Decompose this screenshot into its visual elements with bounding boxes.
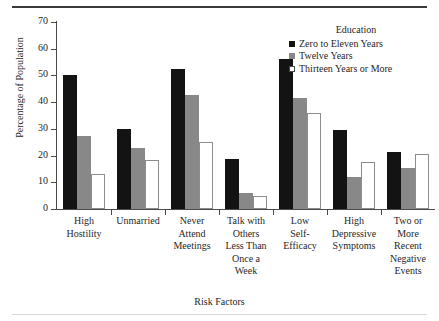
bar	[239, 193, 253, 209]
bar-group	[171, 22, 213, 209]
y-tick-label: 50	[38, 68, 48, 80]
figure-bar-chart: Percentage of Population Risk Factors 01…	[0, 0, 439, 321]
x-axis-title: Risk Factors	[0, 296, 439, 307]
y-tick-label: 40	[38, 95, 48, 107]
bar	[293, 98, 307, 209]
bar	[225, 159, 239, 209]
x-category-label: HighDepressiveSymptoms	[323, 215, 385, 253]
x-category-label: Talk withOthersLess ThanOnce aWeek	[215, 215, 277, 278]
x-category-label: LowSelf-Efficacy	[269, 215, 331, 253]
legend: Education Zero to Eleven YearsTwelve Yea…	[289, 24, 437, 75]
bar-group	[117, 22, 159, 209]
x-category-label: HighHostility	[53, 215, 115, 240]
bar	[63, 75, 77, 209]
bar	[117, 129, 131, 209]
bar	[279, 59, 293, 209]
y-tick-label: 60	[38, 42, 48, 54]
bar	[199, 142, 213, 209]
legend-items: Zero to Eleven YearsTwelve YearsThirteen…	[289, 38, 437, 76]
x-axis-line	[56, 209, 435, 210]
legend-swatch-icon	[289, 53, 295, 59]
legend-item: Thirteen Years or More	[289, 63, 437, 76]
y-tick-label: 0	[43, 202, 48, 214]
bar	[307, 113, 321, 209]
x-category-label: Unmarried	[107, 215, 169, 228]
bar	[145, 160, 159, 209]
top-rule	[12, 6, 427, 8]
x-category-label: Two orMoreRecentNegativeEvents	[377, 215, 439, 278]
legend-item: Twelve Years	[289, 50, 437, 63]
bottom-rule	[12, 314, 427, 315]
bar	[415, 154, 429, 209]
y-tick-label: 30	[38, 122, 48, 134]
y-axis-title: Percentage of Population	[14, 18, 25, 158]
bar	[347, 177, 361, 209]
bar	[387, 152, 401, 209]
bar	[171, 69, 185, 209]
y-tick-label: 10	[38, 175, 48, 187]
bar-group	[225, 22, 267, 209]
bar	[131, 148, 145, 209]
bar-group	[63, 22, 105, 209]
legend-label: Zero to Eleven Years	[299, 38, 383, 51]
x-category-label: NeverAttendMeetings	[161, 215, 223, 253]
bar	[401, 168, 415, 209]
legend-swatch-icon	[289, 41, 295, 47]
legend-title: Education	[289, 24, 437, 37]
bar	[185, 95, 199, 209]
bar	[333, 130, 347, 209]
bar	[253, 196, 267, 209]
legend-item: Zero to Eleven Years	[289, 38, 437, 51]
y-tick: 0	[51, 209, 57, 210]
legend-swatch-icon	[289, 66, 295, 72]
legend-label: Twelve Years	[299, 50, 353, 63]
y-tick-label: 70	[38, 15, 48, 27]
bar	[77, 136, 91, 209]
legend-label: Thirteen Years or More	[299, 63, 392, 76]
y-tick-label: 20	[38, 149, 48, 161]
bar	[361, 162, 375, 209]
bar	[91, 174, 105, 209]
